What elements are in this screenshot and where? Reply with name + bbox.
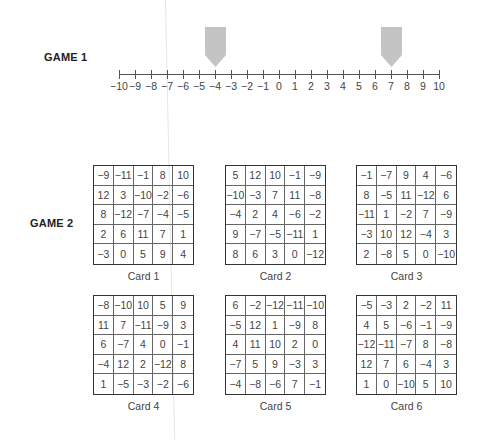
card-cell: −3 (377, 296, 397, 316)
bingo-card-3: −1−794−68−511−126−111−27−9−31012−432−850… (356, 165, 457, 282)
card-cell: 12 (246, 166, 266, 186)
card-cell: 10 (377, 225, 397, 245)
card-cell: 2 (134, 355, 154, 375)
card-label: Card 3 (356, 270, 457, 282)
card-cell: 11 (134, 225, 154, 245)
card-cell: 10 (266, 335, 286, 355)
card-cell: 4 (357, 316, 377, 336)
number-line-tick (375, 70, 376, 79)
number-line-tick (343, 70, 344, 79)
card-cell: 5 (226, 166, 246, 186)
card-cell: −7 (226, 355, 246, 375)
card-cell: −6 (397, 316, 417, 336)
card-cell: 12 (246, 316, 266, 336)
card-cell: −7 (397, 335, 417, 355)
card-cell: −2 (246, 296, 266, 316)
card-cell: 5 (134, 244, 154, 264)
card-cell: 11 (397, 186, 417, 206)
card-cell: −11 (134, 316, 154, 336)
pentagon-arrow-down-icon (205, 27, 226, 67)
card-cell: 11 (246, 335, 266, 355)
card-cell: −2 (153, 374, 173, 394)
card-cell: 4 (134, 335, 154, 355)
card-cell: 11 (94, 316, 114, 336)
card-cell: −4 (416, 355, 436, 375)
card-cell: −6 (285, 205, 305, 225)
bingo-card-1: −9−11−1810123−10−2−68−12−7−4−5261171−305… (93, 165, 194, 282)
number-line-tick (263, 70, 264, 79)
card-cell: −6 (436, 166, 456, 186)
card-cell: −1 (357, 166, 377, 186)
card-cell: −5 (377, 186, 397, 206)
card-cell: −9 (305, 166, 325, 186)
game2-label: GAME 2 (30, 217, 73, 229)
card-cell: −2 (397, 205, 417, 225)
number-line-tick (439, 70, 440, 79)
number-line-tick (423, 70, 424, 79)
card-cell: 0 (114, 244, 134, 264)
card-cell: 10 (436, 374, 456, 394)
card-cell: 1 (266, 316, 286, 336)
card-cell: −7 (377, 166, 397, 186)
card-cell: −3 (246, 186, 266, 206)
card-cell: −11 (377, 335, 397, 355)
number-line-tick (359, 70, 360, 79)
card-cell: −8 (305, 186, 325, 206)
game1-label: GAME 1 (44, 51, 87, 63)
card-grid: −5−32−21145−6−1−9−12−11−78−81276−4310−10… (356, 295, 457, 395)
card-cell: 8 (357, 186, 377, 206)
card-cell: 9 (173, 296, 193, 316)
card-cell: 5 (377, 316, 397, 336)
card-cell: −5 (226, 316, 246, 336)
card-cell: −4 (226, 374, 246, 394)
card-cell: 6 (436, 186, 456, 206)
card-cell: −4 (94, 355, 114, 375)
card-cell: 11 (436, 296, 456, 316)
card-cell: −11 (114, 166, 134, 186)
card-cell: −4 (153, 205, 173, 225)
card-label: Card 2 (225, 270, 326, 282)
number-line-tick (279, 70, 280, 79)
card-cell: −10 (114, 296, 134, 316)
card-cell: 8 (226, 244, 246, 264)
card-cell: −7 (114, 335, 134, 355)
card-cell: −1 (305, 374, 325, 394)
card-cell: 8 (416, 335, 436, 355)
card-cell: 0 (416, 244, 436, 264)
card-cell: 4 (226, 335, 246, 355)
card-grid: 6−2−12−11−10−5121−984111020−759−33−4−8−6… (225, 295, 326, 395)
number-line-tick (183, 70, 184, 79)
card-cell: 8 (305, 316, 325, 336)
card-cell: −3 (94, 244, 114, 264)
card-cell: −3 (285, 355, 305, 375)
card-cell: 11 (285, 186, 305, 206)
card-label: Card 4 (93, 400, 194, 412)
card-cell: 7 (266, 186, 286, 206)
bingo-card-4: −8−101059117−11−936−740−1−4122−1281−5−3−… (93, 295, 194, 412)
card-cell: 0 (285, 244, 305, 264)
card-cell: −2 (153, 186, 173, 206)
card-cell: 1 (173, 225, 193, 245)
card-cell: 7 (114, 316, 134, 336)
card-cell: 12 (94, 186, 114, 206)
card-cell: 5 (397, 244, 417, 264)
card-cell: 0 (305, 335, 325, 355)
card-cell: −5 (173, 205, 193, 225)
number-line-tick (295, 70, 296, 79)
number-line-tick (247, 70, 248, 79)
card-cell: 3 (266, 244, 286, 264)
card-cell: −4 (416, 225, 436, 245)
card-cell: 10 (134, 296, 154, 316)
card-cell: 4 (266, 205, 286, 225)
card-cell: −12 (357, 335, 377, 355)
card-cell: 9 (397, 166, 417, 186)
card-cell: 6 (114, 225, 134, 245)
card-cell: 2 (246, 205, 266, 225)
card-cell: −1 (173, 335, 193, 355)
card-cell: −10 (305, 296, 325, 316)
card-cell: 2 (94, 225, 114, 245)
card-cell: 12 (114, 355, 134, 375)
card-cell: −7 (134, 205, 154, 225)
number-line-tick (119, 70, 120, 79)
card-cell: 7 (416, 205, 436, 225)
